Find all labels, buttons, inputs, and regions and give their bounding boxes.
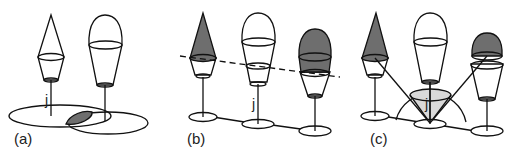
cone-sensor xyxy=(362,13,388,116)
panel-a xyxy=(9,15,148,134)
diagram-canvas xyxy=(0,0,514,156)
panel-b xyxy=(180,13,340,136)
panel-c xyxy=(361,13,503,136)
panel-label-b: (b) xyxy=(187,130,205,147)
panel-label-c: (c) xyxy=(370,130,388,147)
footprint-ellipse-left xyxy=(9,105,111,127)
cone-sensor xyxy=(38,15,64,116)
node-label-j-b: j xyxy=(252,96,255,112)
bucket-sensor-middle xyxy=(242,13,275,124)
bucket-sensor-right xyxy=(471,33,503,131)
node-label-j-a: j xyxy=(45,92,48,108)
panel-label-a: (a) xyxy=(14,130,32,147)
cone-sensor xyxy=(190,13,216,117)
bucket-sensor-right xyxy=(299,29,331,131)
bucket-sensor xyxy=(89,15,122,121)
node-label-j-c: j xyxy=(425,96,428,112)
